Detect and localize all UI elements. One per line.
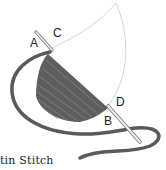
label-b: B [104, 115, 112, 127]
satin-stitch-fill [36, 54, 108, 122]
needle-top [36, 32, 52, 50]
needle-bottom [108, 106, 140, 142]
label-d: D [116, 96, 125, 108]
label-a: A [30, 37, 38, 49]
figure-caption: tin Stitch [0, 154, 54, 167]
label-c: C [53, 27, 62, 39]
satin-stitch-diagram [0, 0, 166, 170]
